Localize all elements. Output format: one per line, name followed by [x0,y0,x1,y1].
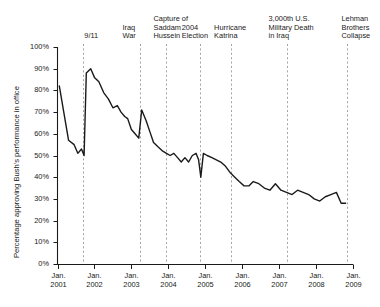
y-axis-tick-label: 40% [19,173,49,181]
event-annotation-label: 2004 Election [182,24,208,41]
chart-container: Percentage approving Bush's performance … [0,0,380,307]
x-axis-tick-label: Jan. 2001 [39,271,79,289]
y-axis-tick-label: 0% [19,260,49,268]
x-axis-ticks [59,265,354,270]
y-axis-ticks [54,48,58,265]
x-axis-tick-label: Jan. 2009 [334,271,374,289]
y-axis-tick-label: 60% [19,130,49,138]
approval-rating-line [59,69,345,204]
y-axis-tick-label: 50% [19,152,49,160]
x-axis-tick-label: Jan. 2006 [223,271,263,289]
x-axis-tick-label: Jan. 2004 [149,271,189,289]
y-axis-tick-label: 70% [19,108,49,116]
event-annotation-label: Iraq War [123,24,136,41]
y-axis-tick-label: 10% [19,238,49,246]
x-axis-tick-label: Jan. 2003 [112,271,152,289]
x-axis-tick-label: Jan. 2008 [297,271,337,289]
y-axis-tick-label: 90% [19,65,49,73]
y-axis-tick-label: 100% [19,43,49,51]
x-axis-tick-label: Jan. 2007 [260,271,300,289]
y-axis-tick-label: 20% [19,217,49,225]
chart-axes [57,47,353,265]
event-annotation-label: Lehman Brothers Collapse [341,15,370,41]
y-axis-tick-label: 30% [19,195,49,203]
event-annotation-label: Hurricane Katrina [214,24,246,41]
x-axis-tick-label: Jan. 2002 [75,271,115,289]
event-annotation-label: 3,000th U.S. Military Death in Iraq [269,15,314,41]
x-axis-tick-label: Jan. 2005 [186,271,226,289]
annotation-guide-lines [84,44,348,264]
event-annotation-label: 9/11 [84,32,98,41]
y-axis-tick-label: 80% [19,86,49,94]
approval-rating-line-chart [0,0,380,307]
